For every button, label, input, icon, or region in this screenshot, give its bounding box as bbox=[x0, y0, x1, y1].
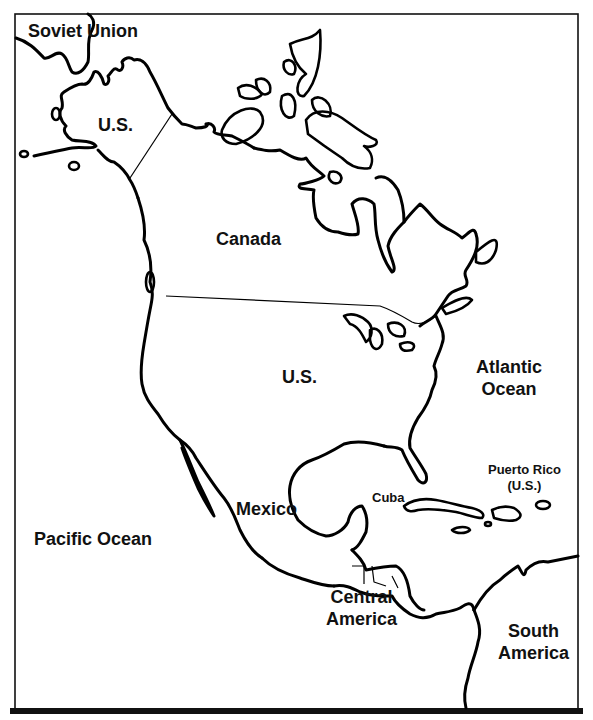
cuba-island bbox=[404, 499, 483, 518]
baffin-island bbox=[306, 112, 377, 169]
label-cuba: Cuba bbox=[372, 490, 405, 506]
alaska-canada-border bbox=[130, 114, 172, 178]
label-south-america: South America bbox=[498, 620, 569, 664]
canada-north-coast bbox=[254, 148, 477, 326]
island-alaska-3 bbox=[69, 162, 79, 170]
arctic-island-4 bbox=[281, 94, 295, 117]
arctic-island-8 bbox=[329, 172, 341, 184]
arctic-island-3 bbox=[256, 79, 270, 95]
newfoundland bbox=[476, 240, 497, 263]
south-america-coast bbox=[465, 610, 480, 708]
hispaniola-island bbox=[492, 507, 520, 521]
label-puerto-rico-line2: (U.S.) bbox=[488, 478, 561, 494]
label-puerto-rico-line1: Puerto Rico bbox=[488, 462, 561, 478]
labrador-coast bbox=[376, 177, 404, 222]
small-caribbean-island bbox=[485, 522, 491, 526]
south-america-north-coast bbox=[474, 556, 578, 610]
label-mexico: Mexico bbox=[236, 498, 297, 520]
label-pacific-ocean: Pacific Ocean bbox=[34, 528, 152, 550]
mexico-pacific-coast bbox=[262, 558, 334, 586]
label-atlantic-line1: Atlantic bbox=[476, 356, 542, 378]
label-alaska-us: U.S. bbox=[98, 114, 133, 136]
label-puerto-rico: Puerto Rico (U.S.) bbox=[488, 462, 561, 494]
label-central-america-line2: America bbox=[326, 608, 397, 630]
label-atlantic-ocean: Atlantic Ocean bbox=[476, 356, 542, 400]
label-soviet-union: Soviet Union bbox=[28, 20, 138, 42]
label-canada: Canada bbox=[216, 228, 281, 250]
label-south-america-line2: America bbox=[498, 642, 569, 664]
gulf-coast bbox=[289, 442, 384, 550]
map-bottom-bar bbox=[10, 708, 583, 714]
label-us: U.S. bbox=[282, 366, 317, 388]
great-lakes bbox=[344, 314, 414, 350]
label-central-america-line1: Central bbox=[326, 586, 397, 608]
island-alaska-2 bbox=[20, 151, 28, 157]
label-central-america: Central America bbox=[326, 586, 397, 630]
alaska-coast bbox=[34, 58, 254, 156]
island-alaska-1 bbox=[52, 108, 60, 120]
puerto-rico-island bbox=[536, 501, 550, 509]
arctic-island-6 bbox=[284, 60, 296, 74]
us-east-coast bbox=[384, 316, 443, 483]
us-canada-border bbox=[166, 296, 436, 324]
jamaica-island bbox=[452, 527, 470, 533]
label-south-america-line1: South bbox=[498, 620, 569, 642]
arctic-island-1 bbox=[222, 109, 263, 144]
label-atlantic-line2: Ocean bbox=[476, 378, 542, 400]
